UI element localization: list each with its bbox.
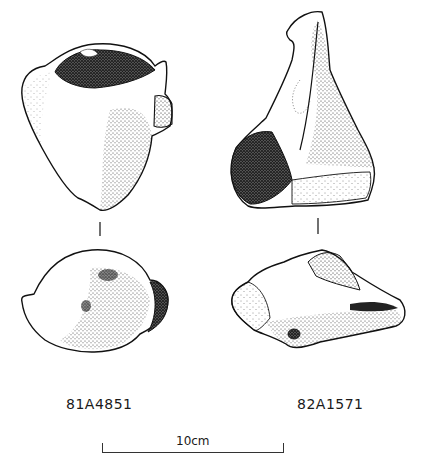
perforation-hole: [288, 329, 300, 339]
specimen-81A4851-top-view: [22, 250, 168, 352]
specimen-label-81A4851: 81A4851: [66, 396, 133, 412]
specimen-82A1571-side-view: [231, 12, 374, 234]
handle-lug: [154, 95, 172, 127]
dark-spot: [81, 300, 91, 312]
specimen-81A4851-side-view: [22, 44, 172, 236]
specimen-label-82A1571: 82A1571: [297, 396, 364, 412]
dark-spot: [98, 269, 118, 281]
specimen-82A1571-top-view: [232, 250, 405, 348]
scale-bar: [102, 443, 284, 453]
body-shading: [100, 108, 152, 210]
